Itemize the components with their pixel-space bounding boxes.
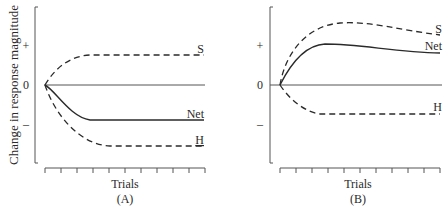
y-tick-minus: – <box>22 117 30 131</box>
series-h-line <box>280 85 440 114</box>
y-axis-label: Change in response magnitude <box>6 5 21 165</box>
series-s-line <box>45 55 204 85</box>
x-axis <box>45 168 205 173</box>
y-axis-line <box>35 7 38 163</box>
series-net-label: Net <box>187 107 205 121</box>
figure: Change in response magnitude + 0 – <box>0 0 445 215</box>
series-net-line <box>280 44 440 85</box>
y-tick-minus: – <box>256 117 264 131</box>
series-s-line <box>280 23 440 85</box>
series-s-label: S <box>435 22 442 36</box>
panel-label: (A) <box>117 192 134 206</box>
panel-a: Change in response magnitude + 0 – <box>6 5 205 206</box>
panel-b: + 0 – S Net H Trials <box>256 7 443 206</box>
y-tick-zero: 0 <box>23 78 29 92</box>
x-axis-label: Trials <box>344 177 372 191</box>
series-h-label: H <box>433 100 442 114</box>
series-net-label: Net <box>425 39 443 53</box>
y-tick-plus: + <box>23 39 30 53</box>
y-tick-zero: 0 <box>257 78 263 92</box>
series-h-line <box>45 85 204 146</box>
series-s-label: S <box>197 42 204 56</box>
x-axis-label: Trials <box>111 177 139 191</box>
series-h-label: H <box>195 133 204 147</box>
series-net-line <box>45 85 204 120</box>
panel-label: (B) <box>350 192 366 206</box>
x-axis <box>280 168 440 173</box>
y-tick-plus: + <box>257 39 264 53</box>
